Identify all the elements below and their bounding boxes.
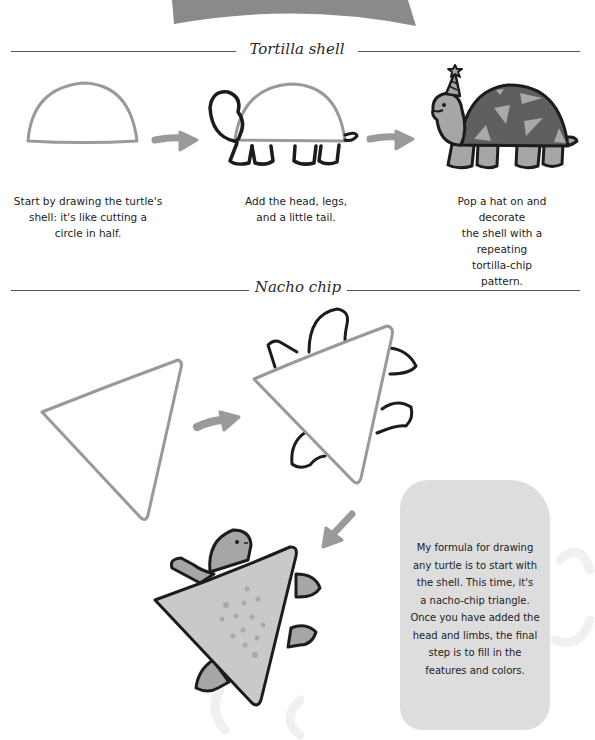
decorated-turtle-drawing [432,65,577,168]
step-caption-hat-pattern: Pop a hat on and decorate the shell with… [456,193,549,289]
triangle-outline-drawing [42,360,182,519]
tip-note-text: My formula for drawing any turtle is to … [405,539,545,679]
shell-outline-drawing [28,83,137,143]
section-divider-right [347,290,580,291]
arrow-right-icon [155,138,182,140]
step-caption-shell-outline: Start by drawing the turtle's shell: it'… [14,193,162,241]
arrow-right-icon [197,420,222,427]
arrow-right-icon [370,137,396,139]
turtle-outline-drawing [210,84,357,164]
section-title-nacho-chip: Nacho chip [255,278,341,296]
section-divider-right [358,51,580,52]
arrow-down-left-icon [334,514,352,533]
section-title-tortilla-shell: Tortilla shell [249,40,344,58]
step-caption-head-legs-tail: Add the head, legs, and a little tail. [245,193,347,225]
top-banner-shape [172,0,416,26]
triangle-turtle-outline-drawing [254,309,416,483]
section-divider-left [11,290,249,291]
section-divider-left [11,51,236,52]
colored-nacho-turtle-drawing [155,530,320,705]
